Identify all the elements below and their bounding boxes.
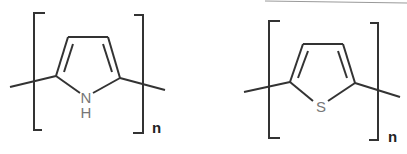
ring-bond-c4-c5 (343, 44, 355, 83)
ring-bond-c2-s (290, 82, 313, 101)
polythiophene-structure: S n (244, 21, 400, 145)
ring-bond-c4-c5 (108, 37, 120, 78)
top-edge-line (265, 1, 407, 3)
left-bracket (34, 13, 45, 130)
left-chain-bond (244, 82, 290, 92)
polypyrrole-structure: N H n (10, 13, 165, 136)
ring-bond-c5-s (328, 83, 355, 101)
sulfur-atom-label: S (316, 98, 326, 115)
ring-bond-c2-c3 (56, 37, 68, 76)
ring-bond-c2-n (56, 76, 80, 93)
ring-bond-c5-n (93, 78, 120, 93)
polymer-structures-diagram: N H n S n (0, 0, 407, 154)
ring-bond-c2-c3 (290, 44, 303, 82)
left-bracket (269, 21, 280, 138)
right-bracket (133, 15, 143, 133)
hydrogen-atom-label: H (81, 104, 92, 121)
right-bracket (369, 23, 378, 140)
repeat-unit-subscript: n (152, 119, 161, 136)
repeat-unit-subscript: n (388, 128, 397, 145)
